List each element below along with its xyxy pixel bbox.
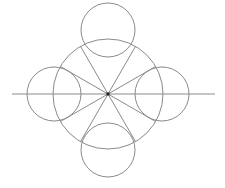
geometric-diagram bbox=[0, 0, 225, 188]
lobe-circle-bottom bbox=[81, 123, 135, 177]
lobe-circles bbox=[27, 3, 189, 177]
radial-line bbox=[108, 67, 156, 95]
radial-line bbox=[81, 94, 109, 142]
center-point bbox=[107, 93, 110, 96]
radial-line bbox=[60, 67, 108, 95]
radial-line bbox=[108, 94, 156, 122]
radial-line bbox=[60, 94, 108, 122]
lobe-circle-top bbox=[81, 3, 135, 57]
radial-line bbox=[108, 94, 136, 142]
